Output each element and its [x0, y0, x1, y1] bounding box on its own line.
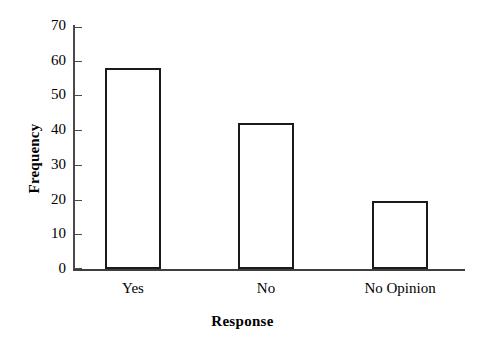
y-axis-tick-label-wrap: 60 — [16, 53, 66, 68]
y-axis-tick-label-wrap: 20 — [16, 192, 66, 207]
y-axis-tick-label: 70 — [20, 18, 66, 33]
bar — [372, 201, 428, 269]
y-axis-tick — [75, 268, 82, 269]
y-axis-tick-label: 60 — [20, 53, 66, 68]
y-axis-tick — [75, 165, 82, 166]
y-axis-tick-label: 20 — [20, 192, 66, 207]
y-axis-tick — [75, 200, 82, 201]
y-axis-tick-label-wrap: 40 — [16, 122, 66, 137]
y-axis-tick — [75, 234, 82, 235]
y-axis-tick-label-wrap: 0 — [16, 261, 66, 276]
y-axis-tick — [75, 130, 82, 131]
y-axis-tick-label-wrap: 30 — [16, 157, 66, 172]
y-axis-tick — [75, 61, 82, 62]
y-axis-tick-label-wrap: 70 — [16, 18, 66, 33]
x-axis-tick-label: No Opinion — [320, 280, 480, 297]
y-axis-tick — [75, 27, 82, 28]
x-axis-title: Response — [0, 313, 485, 330]
y-axis-tick-label: 10 — [20, 226, 66, 241]
y-axis-tick-label-wrap: 10 — [16, 226, 66, 241]
y-axis-tick — [75, 95, 82, 96]
y-axis-tick-label-wrap: 50 — [16, 87, 66, 102]
x-axis-line — [73, 269, 465, 271]
bar — [105, 68, 161, 269]
y-axis-tick-label: 0 — [20, 261, 66, 276]
y-axis-tick-label: 30 — [20, 157, 66, 172]
y-axis-tick-label: 40 — [20, 122, 66, 137]
bar — [238, 123, 294, 269]
bar-chart: Frequency 706050403020100 YesNoNo Opinio… — [0, 0, 485, 351]
y-axis-tick-label: 50 — [20, 87, 66, 102]
